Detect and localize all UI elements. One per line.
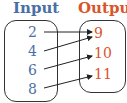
arrow-8-to-11: [44, 76, 92, 88]
arrow-6-to-10: [44, 56, 92, 69]
mapping-arrows: [0, 0, 127, 103]
arrow-4-to-9: [44, 37, 92, 51]
